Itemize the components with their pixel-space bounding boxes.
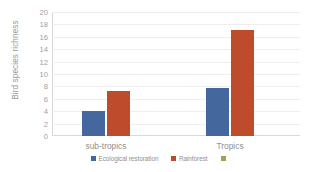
x-axis-tick-label: sub-tropics: [86, 141, 127, 151]
legend-item[interactable]: Rainforest: [171, 155, 207, 162]
y-axis-tick-label: 0: [18, 132, 48, 141]
plot-area: 02468101214161820 sub-tropicsTropics: [52, 12, 300, 136]
gridline: [52, 12, 300, 13]
gridline: [52, 74, 300, 75]
y-axis-tick-label: 4: [18, 107, 48, 116]
y-axis-tick-label: 10: [18, 70, 48, 79]
legend-swatch-icon: [171, 156, 176, 161]
legend-label: Rainforest: [179, 155, 208, 162]
chart-legend: Ecological restorationRainforest: [0, 155, 319, 162]
bar: [107, 91, 130, 136]
bar: [206, 88, 229, 136]
y-axis-tick-label: 20: [18, 8, 48, 17]
gridline: [52, 62, 300, 63]
bar: [82, 111, 105, 136]
y-axis-tick-label: 16: [18, 32, 48, 41]
legend-item[interactable]: Ecological restoration: [91, 155, 159, 162]
legend-item[interactable]: [221, 156, 229, 161]
y-axis-tick-label: 8: [18, 82, 48, 91]
y-axis-tick-label: 14: [18, 45, 48, 54]
y-axis-tick-label: 6: [18, 94, 48, 103]
y-axis-tick-label: 2: [18, 119, 48, 128]
gridline: [52, 86, 300, 87]
x-axis-tick-label: Tropics: [216, 141, 243, 151]
legend-swatch-icon: [91, 156, 96, 161]
gridline: [52, 24, 300, 25]
y-axis-tick-label: 12: [18, 57, 48, 66]
gridline: [52, 37, 300, 38]
gridline: [52, 99, 300, 100]
y-axis-tick-label: 18: [18, 20, 48, 29]
legend-label: Ecological restoration: [98, 155, 158, 162]
bar-chart: Bird species richness 02468101214161820 …: [0, 0, 319, 172]
bar: [231, 30, 254, 136]
gridline: [52, 49, 300, 50]
legend-swatch-icon: [221, 156, 226, 161]
